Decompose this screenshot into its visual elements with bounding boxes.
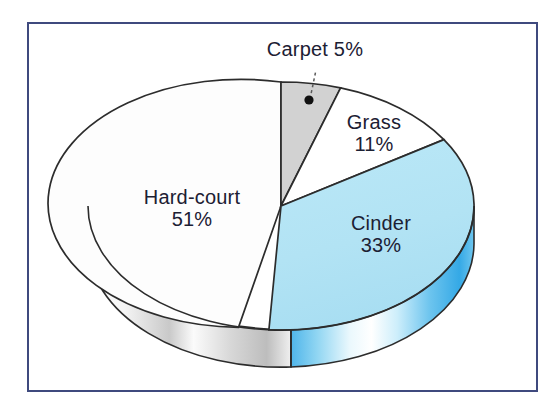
pie-chart-figure: Carpet 5% Grass 11% Cinder 33% Hard-cour…: [0, 0, 558, 412]
carpet-callout-dot: [304, 95, 313, 104]
pie-label-carpet: Carpet 5%: [240, 38, 390, 60]
pie-label-grass: Grass 11%: [318, 111, 430, 156]
pie-label-cinder-name: Cinder: [322, 212, 440, 234]
pie-label-hard-court: Hard-court 51%: [118, 186, 266, 231]
pie-label-carpet-name: Carpet: [267, 38, 328, 60]
pie-label-cinder-percent: 33%: [322, 234, 440, 256]
pie-label-hard-court-name: Hard-court: [118, 186, 266, 208]
pie-label-grass-name: Grass: [318, 111, 430, 133]
pie-label-grass-percent: 11%: [318, 133, 430, 155]
pie-label-hard-court-percent: 51%: [118, 208, 266, 230]
pie-chart-graphic: [0, 0, 558, 412]
pie-label-cinder: Cinder 33%: [322, 212, 440, 257]
pie-label-carpet-percent: 5%: [334, 38, 363, 60]
